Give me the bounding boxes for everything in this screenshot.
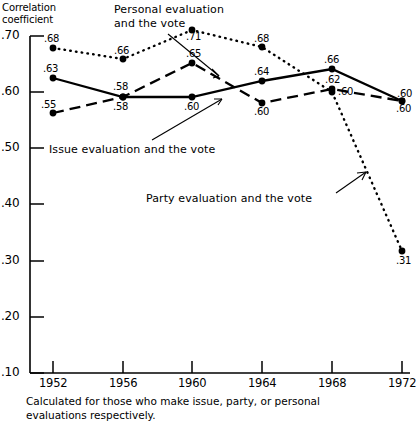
y-tick-label-040: .40 [1,197,19,211]
point-label-issue-1956: .58 [113,81,128,93]
data-point [189,94,196,101]
point-label-personal-1964: .68 [254,33,269,45]
annotation-personal-line2: and the vote [114,17,185,30]
point-label-party-1956: .58 [113,101,128,113]
point-label-party-1968: .62 [325,74,340,86]
x-axis-ticks [53,361,402,373]
point-label-personal-1968: .60 [338,86,353,98]
point-label-personal-1956: .66 [114,45,129,57]
point-label-party-1964: .60 [254,106,269,118]
data-point [50,45,57,52]
data-point [259,78,266,85]
point-label-party-1952: .55 [41,99,56,111]
y-tick-label-030: .30 [1,254,19,268]
point-label-issue-1968: .66 [324,54,339,66]
data-point [329,66,336,73]
y-tick-label-060: .60 [1,85,19,99]
footnote-line2: evaluations respectively. [26,409,156,421]
y-tick-label-070: .70 [1,29,19,43]
data-point [120,94,127,101]
series-personal-line [53,30,402,251]
annotation-personal-line1: Personal evaluation [114,3,224,16]
arrowhead-issue [214,99,222,105]
y-axis-title-line2: coefficient [2,14,53,25]
y-axis-ticks [30,36,44,373]
point-label-issue-1960: .60 [184,101,199,113]
series-issue-evaluation [50,66,406,105]
data-point [399,248,406,255]
point-label-issue-1964: .64 [254,66,269,78]
x-tick-label-1960: 1960 [178,377,206,390]
leader-line-party [336,172,366,193]
x-tick-label-1968: 1968 [318,377,346,390]
x-tick-label-1952: 1952 [39,377,67,390]
point-label-personal-1960: .71 [186,31,201,43]
data-point [50,110,57,117]
y-axis-title: Correlation coefficient [2,2,56,25]
point-label-personal-1952: .68 [44,33,59,45]
y-tick-label-050: .50 [1,141,19,155]
x-tick-label-1964: 1964 [248,377,276,390]
figure-footnote: Calculated for those who make issue, par… [26,394,320,422]
point-label-party-1960: .65 [186,48,201,60]
data-point [329,86,336,93]
y-tick-label-010: .10 [1,366,19,380]
annotation-personal-evaluation: Personal evaluation and the vote [114,3,224,31]
footnote-line1: Calculated for those who make issue, par… [26,395,320,407]
data-point [259,44,266,51]
annotation-party-evaluation: Party evaluation and the vote [146,192,312,206]
x-tick-label-1972: 1972 [388,377,416,390]
data-point [50,75,57,82]
point-label-party-1972: .60 [397,88,412,100]
annotation-issue-evaluation: Issue evaluation and the vote [49,143,215,157]
x-tick-label-1956: 1956 [109,377,137,390]
series-personal-evaluation [50,27,406,255]
point-label-personal-1972: .31 [396,255,411,267]
y-axis-title-line1: Correlation [2,2,56,13]
data-point [189,60,196,67]
y-tick-label-020: .20 [1,310,19,324]
point-label-issue-1952: .63 [43,63,58,75]
point-label-issue-1972: .60 [396,103,411,115]
data-point [120,56,127,63]
